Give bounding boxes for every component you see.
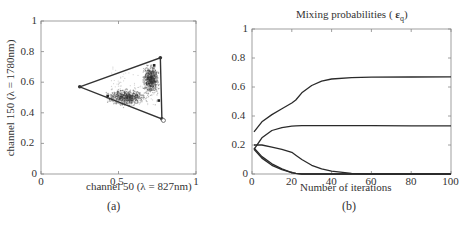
plot-a-xtick: 0 (38, 175, 44, 187)
plot-a-ytick: 0 (32, 167, 38, 179)
plot-b-xtick: 20 (286, 175, 297, 187)
plot-a-xlabel: channel 50 (λ = 827nm) (86, 180, 192, 192)
series-line-q5 (254, 149, 451, 174)
plot-a (41, 21, 196, 174)
plot-b (252, 29, 451, 174)
plot-b-ytick: 0 (243, 167, 249, 179)
plot-b-ytick: 0.2 (232, 138, 246, 150)
plot-b-ytick: 0.6 (232, 80, 246, 92)
plot-a-ytick: 1 (32, 14, 38, 26)
plot-b-ytick: 0.8 (232, 51, 246, 63)
plot-b-caption: (b) (342, 199, 356, 214)
plot-a-xtick: 0.5 (110, 175, 124, 187)
series-line-q2 (254, 126, 451, 150)
series-line-q1 (254, 77, 451, 132)
plot-b-xtick: 100 (442, 175, 459, 187)
plot-a-ytick: 0.6 (21, 75, 35, 87)
plot-b-title-text: Mixing probabilities ( εq) (296, 8, 408, 20)
plot-b-xlabel: Number of iterations (300, 181, 392, 193)
plot-b-xtick: 0 (249, 175, 255, 187)
plot-a-ytick: 0.4 (21, 106, 35, 118)
scatter-points (105, 64, 160, 109)
plot-b-xtick: 80 (405, 175, 416, 187)
plot-a-caption: (a) (107, 199, 120, 214)
plot-b-ytick: 1 (243, 22, 249, 34)
plot-a-xtick: 1 (193, 175, 199, 187)
plot-b-ytick: 0.4 (232, 109, 246, 121)
plot-a-ylabel: channel 150 (λ = 1780nm) (4, 40, 16, 157)
plot-b-xtick: 60 (366, 175, 377, 187)
plot-b-xtick: 40 (326, 175, 337, 187)
plot-a-ytick: 0.2 (21, 136, 35, 148)
plot-a-ytick: 0.8 (21, 45, 35, 57)
plot-b-title: Mixing probabilities ( εq) (296, 8, 408, 23)
